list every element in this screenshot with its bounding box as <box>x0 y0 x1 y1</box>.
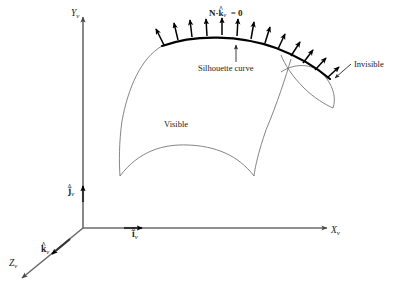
i-hat-label: ^iv <box>132 230 138 240</box>
k-hat-label: ^kv <box>41 245 49 255</box>
z-axis-subscript: v <box>14 262 17 269</box>
j-hat-label: ^jv <box>68 187 74 197</box>
normal-arrow <box>174 23 178 40</box>
normal-arrow <box>156 29 164 45</box>
normal-arrow <box>291 42 300 56</box>
normal-arrow <box>237 19 238 36</box>
normal-arrow <box>206 19 207 36</box>
normal-arrow <box>315 58 326 70</box>
equation-rhs: = 0 <box>231 8 243 18</box>
normal-arrow <box>265 27 270 43</box>
visible-bottom-edge <box>120 145 254 176</box>
j-hat-accent: ^ <box>67 184 72 192</box>
figure-canvas <box>0 0 398 289</box>
silhouette-curve-figure: N·^kv = 0 Yv Xv Zv ^jv ^iv ^kv Silhouett… <box>0 0 398 289</box>
equation-k-hat: ^ <box>219 6 223 14</box>
k-hat-glyph: ^k <box>41 245 46 255</box>
k-subscript: v <box>46 248 49 255</box>
equation-k-vector: ^k <box>219 9 224 18</box>
k-hat-arrow <box>52 239 70 254</box>
equation-k-subscript: v <box>224 11 227 18</box>
normal-arrow <box>190 20 192 37</box>
x-axis-label: Xv <box>331 226 340 236</box>
z-axis-label: Zv <box>9 259 17 269</box>
invisible-leader-line <box>335 64 351 78</box>
y-axis-label: Yv <box>71 9 79 19</box>
silhouette-curve-label: Silhouette curve <box>198 64 253 73</box>
invisible-back-edge <box>281 66 334 108</box>
invisible-label: Invisible <box>354 60 384 69</box>
normal-arrow <box>251 22 254 39</box>
i-hat-glyph: ^i <box>132 230 135 240</box>
normal-dot-k-equation: N·^kv = 0 <box>209 9 243 19</box>
leader-lines <box>236 45 351 78</box>
normal-arrow <box>278 34 285 49</box>
normal-arrow <box>303 50 313 63</box>
visible-label: Visible <box>164 120 188 129</box>
i-hat-accent: ^ <box>131 227 136 235</box>
x-axis-subscript: v <box>337 229 340 236</box>
visible-right-edge <box>254 59 291 176</box>
y-axis-subscript: v <box>76 12 79 19</box>
j-hat-glyph: ^j <box>68 187 71 197</box>
unit-vector-arrows <box>52 186 142 254</box>
k-hat-accent: ^ <box>41 242 46 250</box>
surface-patch <box>119 38 334 176</box>
